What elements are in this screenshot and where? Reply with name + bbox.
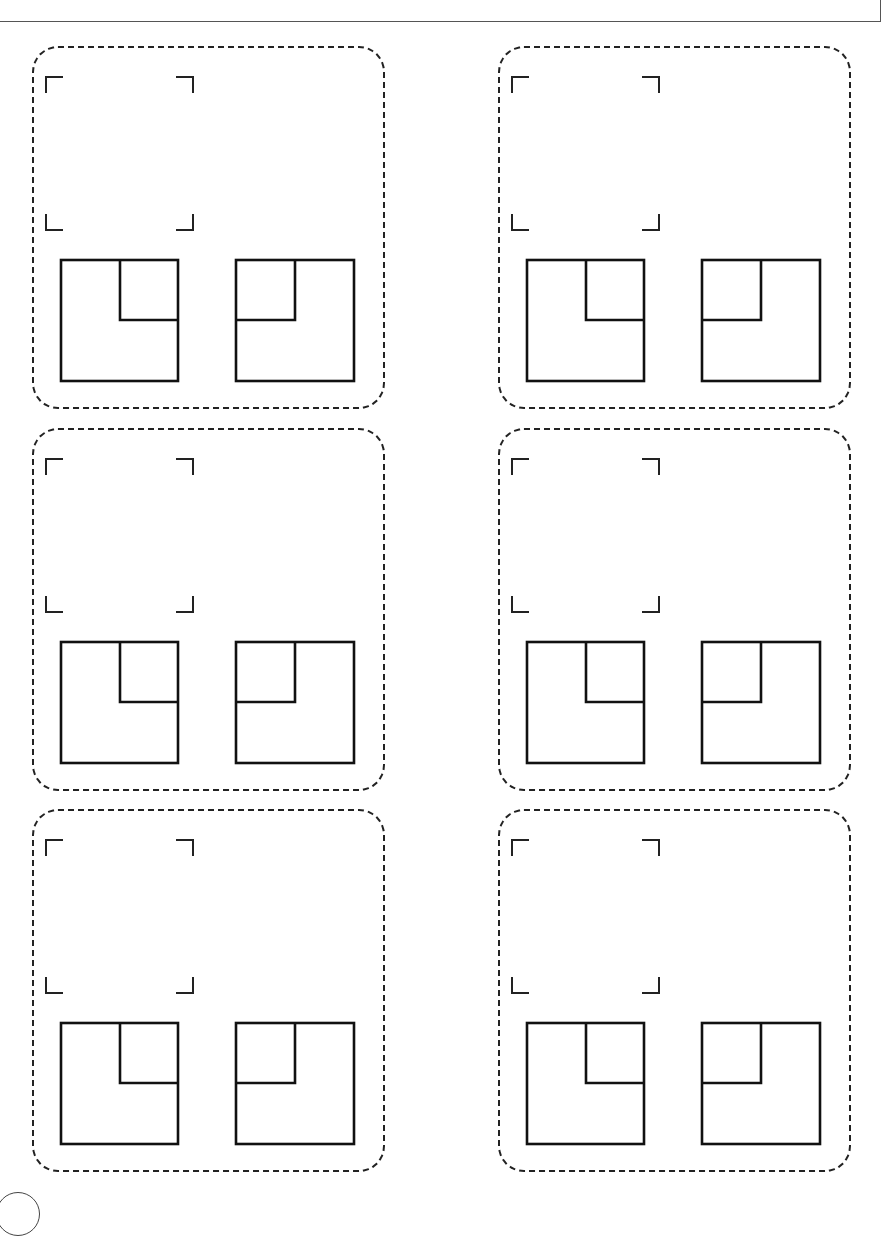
square-shape-left xyxy=(527,642,644,763)
worksheet-card xyxy=(32,809,385,1172)
square-shape-left xyxy=(61,642,178,763)
photo-frame-brackets xyxy=(512,840,659,993)
square-shape-right xyxy=(236,1023,354,1144)
square-shape-right xyxy=(702,260,820,381)
square-shape-right xyxy=(236,642,354,763)
page-number-badge xyxy=(0,1192,40,1236)
square-shape-left xyxy=(527,1023,644,1144)
square-shape-right xyxy=(702,642,820,763)
worksheet-card xyxy=(498,46,851,409)
square-shape-left xyxy=(61,1023,178,1144)
photo-frame-brackets xyxy=(512,77,659,230)
square-shape-left xyxy=(527,260,644,381)
photo-frame-brackets xyxy=(46,840,193,993)
photo-frame-brackets xyxy=(46,459,193,612)
worksheet-card xyxy=(32,428,385,791)
photo-frame-brackets xyxy=(512,459,659,612)
header-box xyxy=(0,0,881,22)
worksheet-card xyxy=(32,46,385,409)
photo-frame-brackets xyxy=(46,77,193,230)
worksheet-card xyxy=(498,809,851,1172)
square-shape-left xyxy=(61,260,178,381)
square-shape-right xyxy=(702,1023,820,1144)
worksheet-card xyxy=(498,428,851,791)
square-shape-right xyxy=(236,260,354,381)
